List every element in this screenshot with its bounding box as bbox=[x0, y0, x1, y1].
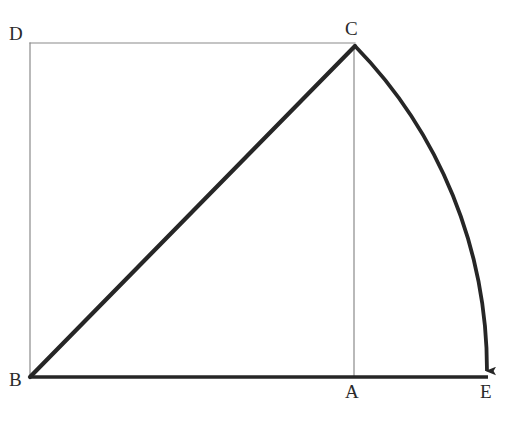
arc-CE bbox=[355, 46, 487, 371]
vertex-label-d: D bbox=[9, 24, 23, 43]
geometry-figure bbox=[0, 0, 509, 421]
vertex-label-c: C bbox=[345, 19, 358, 38]
diagram-canvas: D C B A E bbox=[0, 0, 509, 421]
vertex-label-a: A bbox=[345, 382, 359, 401]
vertex-label-e: E bbox=[480, 382, 492, 401]
hypotenuse-BC bbox=[30, 46, 355, 377]
vertex-label-b: B bbox=[9, 370, 22, 389]
